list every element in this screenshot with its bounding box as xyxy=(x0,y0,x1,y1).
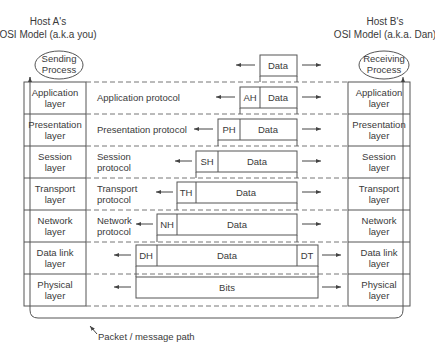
svg-text:Data: Data xyxy=(268,60,289,71)
svg-text:Session: Session xyxy=(362,151,396,162)
svg-text:Presentation: Presentation xyxy=(352,119,405,130)
svg-text:Data: Data xyxy=(258,124,279,135)
svg-text:Data: Data xyxy=(227,219,248,230)
svg-text:layer: layer xyxy=(45,162,66,173)
host-a-network-layer: Networklayer xyxy=(38,215,73,237)
svg-text:Session: Session xyxy=(38,151,72,162)
svg-text:Process: Process xyxy=(367,64,402,75)
svg-text:Session: Session xyxy=(97,151,131,162)
svg-text:DH: DH xyxy=(139,250,153,261)
network-protocol-label: Networkprotocol xyxy=(97,215,132,237)
svg-text:TH: TH xyxy=(180,187,193,198)
svg-text:layer: layer xyxy=(45,194,66,205)
svg-text:Network: Network xyxy=(97,215,132,226)
svg-text:Data: Data xyxy=(247,156,268,167)
host-b-title: Host B's OSI Model (a.k.a. Dan) xyxy=(334,16,435,40)
svg-text:layer: layer xyxy=(45,226,66,237)
svg-text:Data: Data xyxy=(236,187,257,198)
svg-text:Physical: Physical xyxy=(37,279,72,290)
svg-text:Bits: Bits xyxy=(219,282,235,293)
host-b-application-layer: Applicationlayer xyxy=(356,87,402,109)
host-b-physical-layer: Physicallayer xyxy=(361,279,396,301)
application-protocol-label: Application protocol xyxy=(97,92,180,103)
host-b-presentation-layer: Presentationlayer xyxy=(352,119,405,141)
svg-text:layer: layer xyxy=(369,130,390,141)
svg-text:layer: layer xyxy=(369,194,390,205)
svg-text:Data link: Data link xyxy=(361,247,398,258)
svg-text:layer: layer xyxy=(45,98,66,109)
packet-path-label: Packet / message path xyxy=(98,331,195,342)
host-a-title: Host A's OSI Model (a.k.a you) xyxy=(0,16,97,40)
host-a-physical-layer: Physicallayer xyxy=(37,279,72,301)
host-b-network-layer: Networklayer xyxy=(362,215,397,237)
svg-text:layer: layer xyxy=(45,258,66,269)
svg-text:protocol: protocol xyxy=(97,226,131,237)
svg-text:Sending: Sending xyxy=(42,53,77,64)
svg-text:Data: Data xyxy=(268,92,289,103)
svg-text:layer: layer xyxy=(369,162,390,173)
host-a-application-layer: Applicationlayer xyxy=(32,87,78,109)
svg-text:protocol: protocol xyxy=(97,162,131,173)
host-b-transport-layer: Transportlayer xyxy=(359,183,400,205)
receiving-process: Receiving Process xyxy=(359,51,409,79)
host-a-datalink-layer: Data linklayer xyxy=(37,247,74,269)
host-b-datalink-layer: Data linklayer xyxy=(361,247,398,269)
svg-text:Transport: Transport xyxy=(359,183,400,194)
svg-text:Process: Process xyxy=(42,64,77,75)
svg-text:protocol: protocol xyxy=(97,194,131,205)
sending-process: Sending Process xyxy=(35,51,83,79)
host-a-session-layer: Sessionlayer xyxy=(38,151,72,173)
svg-text:layer: layer xyxy=(45,290,66,301)
presentation-protocol-label: Presentation protocol xyxy=(97,124,187,135)
transport-protocol-label: Transportprotocol xyxy=(97,183,138,205)
svg-text:Application: Application xyxy=(32,87,78,98)
host-a-presentation-layer: Presentationlayer xyxy=(28,119,81,141)
svg-text:layer: layer xyxy=(369,226,390,237)
svg-text:AH: AH xyxy=(243,92,256,103)
osi-diagram: Host A's OSI Model (a.k.a you) Host B's … xyxy=(0,0,435,350)
session-protocol-label: Sessionprotocol xyxy=(97,151,131,173)
svg-text:Data: Data xyxy=(217,250,238,261)
svg-text:Application: Application xyxy=(356,87,402,98)
path-label-pointer xyxy=(90,326,97,334)
svg-text:layer: layer xyxy=(45,130,66,141)
svg-text:Host B's: Host B's xyxy=(367,16,404,27)
svg-text:Transport: Transport xyxy=(97,183,138,194)
svg-text:Presentation: Presentation xyxy=(28,119,81,130)
svg-text:DT: DT xyxy=(301,250,314,261)
svg-text:OSI Model (a.k.a you): OSI Model (a.k.a you) xyxy=(0,29,97,40)
svg-text:Physical: Physical xyxy=(361,279,396,290)
svg-text:Data link: Data link xyxy=(37,247,74,258)
svg-text:PH: PH xyxy=(222,124,235,135)
svg-text:Network: Network xyxy=(38,215,73,226)
svg-text:layer: layer xyxy=(369,258,390,269)
svg-text:Receiving: Receiving xyxy=(363,53,405,64)
host-b-session-layer: Sessionlayer xyxy=(362,151,396,173)
svg-text:Host A's: Host A's xyxy=(30,16,66,27)
svg-text:layer: layer xyxy=(369,98,390,109)
svg-text:layer: layer xyxy=(369,290,390,301)
svg-text:NH: NH xyxy=(160,219,174,230)
host-a-transport-layer: Transportlayer xyxy=(35,183,76,205)
svg-text:Transport: Transport xyxy=(35,183,76,194)
svg-text:SH: SH xyxy=(200,156,213,167)
svg-text:OSI Model (a.k.a. Dan): OSI Model (a.k.a. Dan) xyxy=(334,29,435,40)
svg-text:Network: Network xyxy=(362,215,397,226)
